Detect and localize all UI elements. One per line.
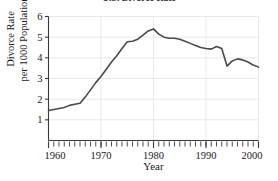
- y-tick-label: 4: [37, 52, 43, 63]
- x-tick-label: 2000: [242, 150, 263, 161]
- x-tick-label: 1970: [91, 150, 112, 161]
- y-tick-label: 2: [37, 94, 42, 105]
- x-axis-tick-labels: 19601970198019902000: [45, 150, 263, 161]
- x-axis-title: Year: [48, 160, 259, 172]
- y-tick-label: 3: [37, 73, 42, 84]
- line-chart-plot: 123456 19601970198019902000: [0, 0, 278, 181]
- chart-figure: U.S. Divorce Rate 123456 196019701980199…: [0, 0, 278, 181]
- y-axis-tick-labels: 123456: [37, 11, 43, 125]
- gridlines: [49, 17, 259, 141]
- y-tick-label: 5: [37, 32, 42, 43]
- x-tick-label: 1980: [143, 150, 164, 161]
- x-tick-label: 1990: [196, 150, 217, 161]
- y-tick-label: 1: [37, 114, 42, 125]
- x-tick-label: 1960: [45, 150, 66, 161]
- y-tick-label: 6: [37, 11, 42, 22]
